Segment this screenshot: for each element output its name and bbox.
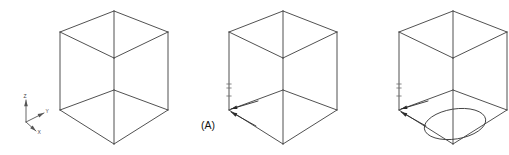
leader-arrowhead-1 — [401, 105, 407, 109]
edge-bottom-back-left — [60, 90, 114, 110]
figure-canvas: ZYX (A) — [0, 0, 509, 155]
leader-arrowhead-2 — [231, 112, 237, 117]
isometric-cube-plain — [60, 11, 168, 144]
isometric-diagram: ZYX (A) — [0, 0, 509, 155]
edge-top-back-left — [229, 11, 283, 32]
isometric-cube-with-callout: (A) — [201, 11, 337, 144]
edge-top-front-left — [399, 32, 453, 58]
edge-top-front-right — [283, 32, 337, 58]
edge-top-front-right — [114, 32, 168, 58]
edge-top-back-left — [399, 11, 453, 32]
edge-top-front-right — [453, 32, 507, 58]
axis-y-label: Y — [46, 108, 50, 114]
callout-label-a: (A) — [201, 119, 215, 131]
edge-bottom-front-left — [60, 110, 114, 144]
edge-bottom-front-right — [283, 110, 337, 144]
axis-y-arrowhead — [38, 113, 44, 117]
cube-collection: (A) — [60, 11, 507, 144]
axis-z-label: Z — [24, 93, 27, 99]
circular-hole-ellipse — [422, 104, 488, 143]
edge-bottom-front-right — [453, 110, 507, 144]
leader-arrowhead-2 — [401, 112, 407, 117]
edge-top-back-left — [60, 11, 114, 32]
edge-top-back-right — [283, 11, 337, 32]
edge-top-front-left — [60, 32, 114, 58]
edge-bottom-back-right — [453, 90, 507, 110]
edge-top-back-right — [114, 11, 168, 32]
edge-bottom-back-right — [283, 90, 337, 110]
edge-top-front-left — [229, 32, 283, 58]
axis-z-arrowhead — [24, 100, 28, 106]
coordinate-axis-triad: ZYX — [24, 93, 50, 135]
edge-top-back-right — [453, 11, 507, 32]
isometric-cube-with-hole — [397, 11, 507, 144]
axis-x-label: X — [38, 129, 42, 135]
edge-bottom-back-right — [114, 90, 168, 110]
edge-bottom-front-right — [114, 110, 168, 144]
leader-arrowhead-1 — [231, 105, 237, 109]
